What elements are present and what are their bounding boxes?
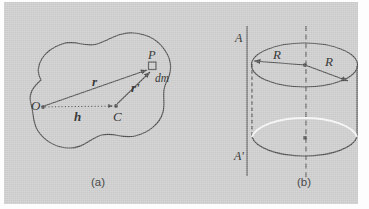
label-mass-element-dm: dm	[155, 73, 169, 85]
bottom-face-center-dot	[303, 136, 306, 139]
label-axis-A: A	[235, 32, 242, 44]
label-origin-O: O	[31, 99, 40, 112]
vector-h-line	[45, 106, 113, 107]
figure-root: O C P dm r r' h A A' R R (a) (b)	[0, 0, 369, 209]
point-C-marker	[114, 104, 118, 108]
label-point-P: P	[148, 49, 156, 62]
label-axis-A-prime: A'	[234, 150, 244, 162]
label-vector-r-prime: r'	[131, 81, 140, 94]
figure-drawing	[0, 0, 369, 209]
cylinder-bottom-ellipse-front-half	[252, 137, 357, 156]
label-vector-r: r	[92, 75, 97, 88]
label-vector-h: h	[74, 110, 81, 123]
panel-b-group	[247, 26, 358, 178]
label-radius-right-R: R	[325, 55, 333, 68]
point-O-marker	[41, 105, 45, 109]
caption-panel-b: (b)	[297, 177, 311, 189]
top-face-center-dot	[303, 63, 307, 67]
caption-panel-a: (a)	[91, 177, 105, 189]
cylinder-bottom-ellipse-hidden-half	[252, 118, 357, 137]
label-center-of-mass-C: C	[113, 110, 122, 123]
mass-element-dm-marker	[149, 62, 157, 70]
label-radius-left-R: R	[273, 48, 281, 61]
